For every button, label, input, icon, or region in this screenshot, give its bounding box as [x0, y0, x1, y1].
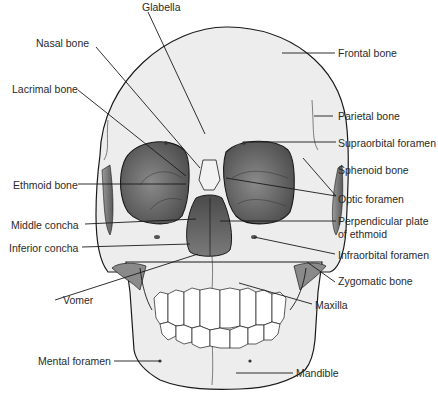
label-mandible: Mandible — [296, 367, 339, 379]
label-frontal-bone: Frontal bone — [338, 47, 397, 59]
label-supraorbital-foramen: Supraorbital foramen — [338, 137, 436, 149]
orbit-right — [224, 141, 295, 224]
label-nasal-bone: Nasal bone — [36, 37, 89, 49]
label-middle-concha: Middle concha — [11, 219, 79, 231]
mental-dot-right — [248, 359, 251, 362]
supraorbital-dot-left — [164, 141, 168, 145]
label-inferior-concha: Inferior concha — [9, 242, 78, 254]
label-mental-foramen: Mental foramen — [38, 355, 111, 367]
label-vomer: Vomer — [63, 294, 93, 306]
label-infraorbital-foramen: Infraorbital foramen — [338, 249, 429, 261]
nasal-bones — [199, 160, 220, 190]
infraorbital-dot-left — [154, 235, 160, 239]
label-optic-foramen: Optic foramen — [338, 193, 404, 205]
label-glabella: Glabella — [142, 1, 181, 13]
orbit-left — [121, 142, 190, 224]
label-maxilla: Maxilla — [315, 299, 348, 311]
label-lacrimal-bone: Lacrimal bone — [12, 83, 78, 95]
label-ethmoid-bone: Ethmoid bone — [13, 179, 78, 191]
label-sphenoid-bone: Sphenoid bone — [338, 164, 409, 176]
label-perpendicular-plate: Perpendicular plate — [338, 215, 428, 227]
nasal-cavity — [187, 195, 232, 256]
label-perpendicular-plate-line2: of ethmoid — [338, 228, 387, 240]
label-zygomatic-bone: Zygomatic bone — [338, 275, 413, 287]
label-parietal-bone: Parietal bone — [338, 110, 400, 122]
